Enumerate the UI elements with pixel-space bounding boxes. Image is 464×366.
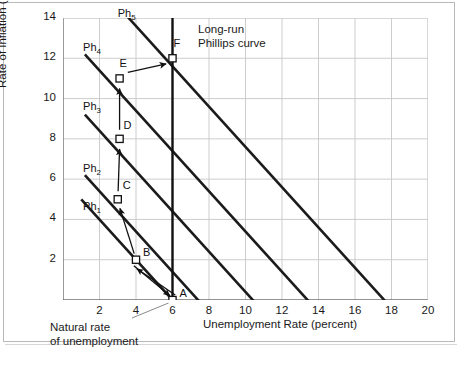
curve-label-Ph3: Ph3: [83, 100, 101, 115]
curve-label-Ph5: Ph5: [118, 7, 136, 22]
phillips-curve-figure: 2468101214161820 2468101214 Rate of Infl…: [0, 0, 464, 366]
y-tick-6: 6: [36, 171, 56, 183]
x-tick-18: 18: [384, 304, 400, 316]
x-tick-4: 4: [128, 304, 144, 316]
curve-label-text: Ph: [83, 162, 96, 174]
curve-label-Ph4: Ph4: [83, 41, 101, 56]
x-tick-20: 20: [420, 304, 436, 316]
x-tick-10: 10: [238, 304, 254, 316]
long-run-curve-label-line1: Long-run: [198, 22, 266, 36]
curve-label-text: Ph: [83, 200, 96, 212]
natural-rate-annotation: Natural rate of unemployment: [50, 320, 138, 348]
marker-E: [116, 75, 123, 82]
data-point-markers: [114, 55, 176, 300]
curve-label-subscript: 2: [97, 168, 101, 177]
y-tick-10: 10: [36, 91, 56, 103]
point-label-A: A: [180, 287, 187, 299]
y-tick-14: 14: [36, 10, 56, 22]
short-run-phillips-curves: [81, 18, 399, 300]
marker-C: [114, 196, 121, 203]
plot-area: [63, 18, 428, 300]
marker-A: [169, 296, 176, 300]
curve-label-subscript: 5: [131, 13, 135, 22]
x-tick-12: 12: [274, 304, 290, 316]
y-tick-4: 4: [36, 211, 56, 223]
curve-label-subscript: 4: [97, 47, 101, 56]
natural-rate-annotation-line1: Natural rate: [50, 320, 138, 334]
point-label-E: E: [120, 57, 127, 69]
y-tick-2: 2: [36, 252, 56, 264]
natural-rate-annotation-line2: of unemployment: [50, 334, 138, 348]
gridlines: [63, 18, 428, 300]
x-tick-2: 2: [92, 304, 108, 316]
x-tick-8: 8: [201, 304, 217, 316]
marker-F: [169, 55, 176, 62]
y-tick-8: 8: [36, 131, 56, 143]
curve-label-text: Ph: [83, 100, 96, 112]
marker-B: [132, 256, 139, 263]
y-axis-title: Rate of Inflation (percent per year): [0, 0, 8, 88]
curve-label-Ph2: Ph2: [83, 162, 101, 177]
long-run-curve-label-line2: Phillips curve: [198, 36, 266, 50]
x-tick-16: 16: [347, 304, 363, 316]
curve-label-text: Ph: [83, 41, 96, 53]
x-tick-6: 6: [165, 304, 181, 316]
point-label-D: D: [124, 119, 132, 131]
x-tick-14: 14: [311, 304, 327, 316]
curve-label-subscript: 1: [97, 207, 101, 216]
x-axis-title: Unemployment Rate (percent): [203, 318, 357, 330]
curve-label-text: Ph: [118, 7, 131, 19]
point-label-C: C: [123, 179, 131, 191]
marker-D: [116, 135, 123, 142]
chart-svg: [63, 18, 428, 300]
point-label-F: F: [174, 37, 181, 49]
long-run-curve-label: Long-run Phillips curve: [198, 22, 266, 50]
curve-label-Ph1: Ph1: [83, 200, 101, 215]
y-tick-12: 12: [36, 50, 56, 62]
curve-label-subscript: 3: [97, 106, 101, 115]
point-label-B: B: [143, 246, 150, 258]
